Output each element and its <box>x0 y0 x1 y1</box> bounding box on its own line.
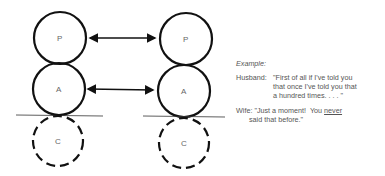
right-adult-label: A <box>181 87 187 96</box>
right-child-label: C <box>181 139 187 148</box>
right-divider-line <box>143 116 225 117</box>
adult-transaction-arrow-icon <box>88 89 153 90</box>
husband-speaker: Husband: <box>236 73 273 100</box>
husband-quote: "First of all if I've told you that once… <box>273 73 357 100</box>
husband-quote-line3: a hundred times. . . . " <box>273 91 357 100</box>
right-ego-states: P A C <box>143 13 225 168</box>
wife-quote-line2: said that before." <box>236 115 385 124</box>
left-adult-label: A <box>56 85 62 94</box>
wife-line: Wife: "Just a moment! You never said tha… <box>236 106 385 124</box>
husband-quote-line1: "First of all if I've told you <box>273 73 357 82</box>
husband-quote-line2: that once I've told you that <box>273 82 357 91</box>
example-dialogue: Example: Husband: "First of all if I've … <box>236 59 385 124</box>
husband-line: Husband: "First of all if I've told you … <box>236 73 385 100</box>
left-child-label: C <box>55 137 61 146</box>
left-parent-label: P <box>57 34 62 43</box>
right-parent-label: P <box>183 35 188 44</box>
wife-speaker: Wife: <box>236 106 252 115</box>
example-title: Example: <box>236 59 385 68</box>
wife-emphasis-never: never <box>324 106 342 115</box>
wife-quote-line1: "Just a moment! You <box>254 106 324 115</box>
